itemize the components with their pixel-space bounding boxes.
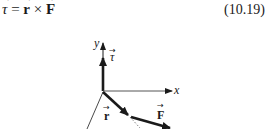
tau-label: τ: [110, 50, 115, 64]
z-axis: [87, 92, 103, 129]
r-label: r: [104, 109, 110, 123]
y-axis-label: y: [93, 36, 100, 50]
x-axis-label: x: [173, 83, 180, 97]
torque-diagram: y x → τ → r → F: [0, 0, 273, 129]
F-label: F: [157, 108, 164, 122]
